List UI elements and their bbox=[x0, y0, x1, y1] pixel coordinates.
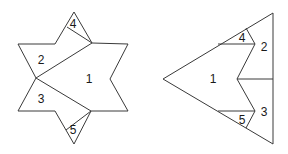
piece-label-1: 1 bbox=[86, 72, 93, 86]
piece-label-3: 3 bbox=[261, 105, 268, 119]
piece-label-4: 4 bbox=[70, 17, 77, 31]
piece-label-2: 2 bbox=[261, 40, 268, 54]
piece-label-5: 5 bbox=[239, 113, 246, 127]
piece-label-1: 1 bbox=[210, 72, 217, 86]
dissection-diagram: 1 2 3 4 5 1 2 3 4 5 bbox=[0, 0, 288, 154]
triangle-figure: 1 2 3 4 5 bbox=[163, 13, 273, 144]
piece-label-2: 2 bbox=[38, 53, 45, 67]
piece-label-5: 5 bbox=[70, 123, 77, 137]
hexagram-figure: 1 2 3 4 5 bbox=[18, 12, 128, 144]
piece-label-3: 3 bbox=[38, 92, 45, 106]
piece-label-4: 4 bbox=[239, 31, 246, 45]
